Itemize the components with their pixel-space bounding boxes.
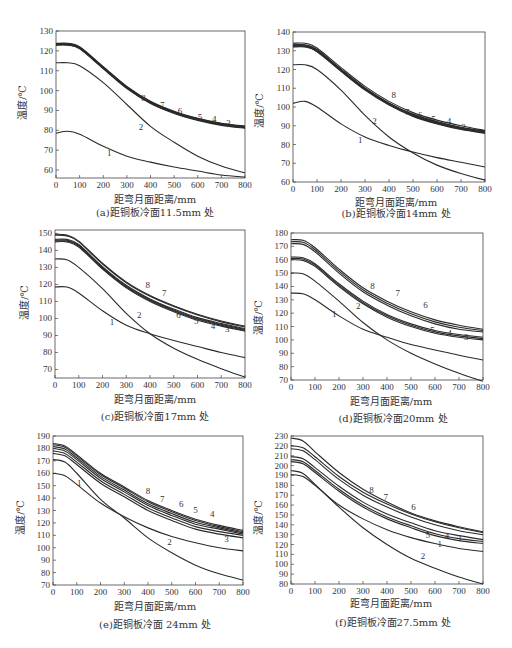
x-tick-label: 500 [165,587,179,597]
curve-label: 7 [160,100,165,110]
x-tick-label: 100 [73,180,87,190]
y-tick-label: 160 [37,468,51,478]
y-tick-label: 140 [39,245,53,255]
y-tick-label: 170 [275,241,289,251]
y-tick-label: 110 [275,322,289,332]
x-tick-label: 200 [332,382,346,392]
x-tick-label: 0 [291,184,296,194]
series-line-2 [293,64,485,180]
curve-label: 4 [445,531,450,541]
curve-label: 1 [332,309,337,319]
chart-panel-a: 0100200300400500600700800607080901001101… [0,0,256,215]
curve-label: 2 [372,116,377,126]
y-tick-label: 100 [275,335,289,345]
x-tick-label: 100 [72,380,86,390]
y-tick-label: 110 [40,66,54,76]
y-tick-label: 60 [281,177,291,187]
x-tick-label: 400 [382,184,396,194]
y-tick-label: 190 [37,431,51,441]
curve-label: 5 [431,114,436,124]
x-tick-label: 100 [308,382,322,392]
y-tick-label: 130 [277,46,291,56]
y-tick-label: 80 [279,579,289,589]
curve-label: 6 [179,499,184,509]
y-tick-label: 170 [275,490,289,500]
curve-label: 4 [447,328,452,338]
y-axis-label: 温度/℃ [250,500,265,535]
curve-label: 8 [145,280,150,290]
y-tick-label: 90 [279,348,289,358]
y-tick-label: 180 [275,480,289,490]
series-line-3 [293,47,485,134]
x-tick-label: 600 [430,184,444,194]
y-tick-label: 170 [37,456,51,466]
curve-label: 2 [167,537,172,547]
chart-panel-b: 0100200300400500600700800607080901001101… [256,0,512,215]
y-axis-label: 温度/℃ [250,300,265,335]
y-tick-label: 90 [44,105,54,115]
curve-label: 7 [384,492,389,502]
y-tick-label: 220 [275,441,289,451]
curve-label: 4 [447,116,452,126]
chart-panel-e: 0100200300400500600700800708090100110120… [0,430,256,648]
y-tick-label: 90 [279,569,289,579]
y-tick-label: 190 [275,470,289,480]
y-tick-label: 90 [281,121,291,131]
series-line-6 [291,244,483,332]
series-line-6 [293,45,485,132]
x-axis-label: 距弯月面距离/mm [100,598,210,613]
y-tick-label: 160 [275,500,289,510]
series-line-1 [293,101,485,167]
curve-label: 3 [464,332,469,342]
y-tick-label: 230 [275,431,289,441]
x-tick-label: 200 [96,380,110,390]
panel-caption: (f)距铜板冷面27.5mm 处 [318,614,468,629]
curve-label: 5 [194,316,199,326]
y-tick-label: 110 [275,549,289,559]
y-tick-label: 140 [275,520,289,530]
y-tick-label: 200 [275,461,289,471]
curve-label: 5 [430,325,435,335]
chart-plot-a: 0100200300400500600700800607080901001101… [0,0,256,215]
y-tick-label: 100 [40,86,54,96]
y-tick-label: 180 [275,228,289,238]
x-tick-label: 600 [189,587,203,597]
series-line-4 [56,45,245,128]
y-tick-label: 80 [279,362,289,372]
x-tick-label: 600 [428,382,442,392]
plot-frame [291,233,483,380]
curve-label: 6 [423,300,428,310]
x-tick-label: 600 [191,180,205,190]
x-axis-label: 距弯月面距离/mm [336,595,446,610]
x-tick-label: 500 [404,382,418,392]
curve-label: 1 [438,539,443,549]
x-axis-label: 距弯月面距离/mm [100,391,210,406]
x-tick-label: 800 [478,184,492,194]
x-tick-label: 0 [53,380,58,390]
x-tick-label: 300 [118,587,132,597]
plot-frame [291,436,483,584]
y-tick-label: 80 [44,125,54,135]
y-tick-label: 120 [39,279,53,289]
chart-panel-f: 0100200300400500600700800809010011012013… [256,430,512,648]
y-tick-label: 130 [37,506,51,516]
y-tick-label: 70 [281,158,291,168]
y-tick-label: 100 [275,559,289,569]
y-tick-label: 110 [277,83,291,93]
chart-panel-d: 0100200300400500600700800708090100110120… [256,215,512,430]
x-tick-label: 300 [356,382,370,392]
x-tick-label: 400 [144,180,158,190]
y-tick-label: 120 [275,308,289,318]
x-tick-label: 300 [358,184,372,194]
y-tick-label: 110 [39,296,53,306]
x-tick-label: 800 [476,382,490,392]
series-line-1 [56,131,245,177]
curve-label: 6 [418,110,423,120]
x-tick-label: 500 [406,184,420,194]
x-tick-label: 700 [213,587,227,597]
series-line-8 [291,438,483,532]
panel-caption: (c)距铜板冷面17mm 处 [80,408,230,423]
series-line-2 [291,273,483,381]
curve-label: 2 [421,551,426,561]
x-tick-label: 300 [120,380,134,390]
